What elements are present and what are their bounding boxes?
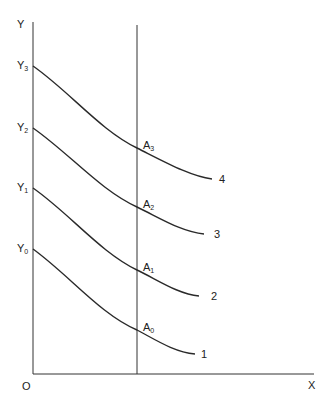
curve-4-label: 4	[219, 173, 225, 185]
a3-label: A3	[143, 139, 154, 152]
a2-label: A2	[143, 198, 154, 211]
y2-label: Y2	[17, 121, 28, 134]
origin-label: O	[22, 380, 31, 392]
a0-label: A0	[143, 321, 154, 334]
y3-label: Y3	[17, 59, 28, 72]
curve-2-label: 2	[211, 290, 217, 302]
a1-label: A1	[143, 261, 154, 274]
curve-1-label: 1	[201, 348, 207, 360]
curve-2	[33, 188, 199, 296]
x-axis-label: X	[308, 379, 316, 391]
curve-4	[33, 66, 212, 179]
y1-label: Y1	[17, 181, 28, 194]
curve-3	[33, 128, 204, 234]
curve-1	[33, 249, 195, 354]
y-axis-label: Y	[17, 18, 25, 30]
curve-3-label: 3	[214, 228, 220, 240]
diagram-canvas: Y X O Y0 Y1 Y2 Y3 A0 A1 A2 A3 1 2 3 4	[0, 0, 332, 402]
y0-label: Y0	[17, 242, 28, 255]
